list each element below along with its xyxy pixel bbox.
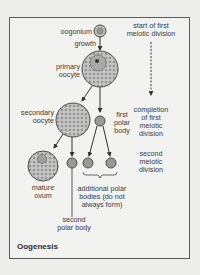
label-completion-line4: division — [128, 130, 174, 138]
first-polar-body-cell — [95, 116, 105, 126]
arrow-to-mature-ovum — [54, 134, 63, 148]
label-start-line2: meiotic division — [120, 30, 182, 38]
label-secondary-oocyte: secondary oocyte — [10, 109, 54, 125]
label-second-line3: division — [128, 166, 174, 174]
label-second-polar-body: second polar body — [52, 216, 96, 232]
label-additional-polar-bodies: additional polar bodies (do not always f… — [72, 185, 132, 209]
label-completion-first-meiotic-division: completion of first meiotic division — [128, 106, 174, 138]
additional-polar-bodies-brace — [83, 172, 117, 178]
arrow-to-secondary-oocyte — [82, 86, 92, 101]
oogonium-cell — [94, 25, 106, 37]
arrow-to-additional-polar-body-2 — [103, 126, 110, 156]
oogenesis-figure: oogonium growth primary oocyte secondary… — [0, 0, 200, 275]
label-mature-ovum: mature ovum — [25, 184, 61, 200]
label-mature-ovum-line2: ovum — [25, 192, 61, 200]
primary-oocyte-cell — [82, 51, 118, 87]
label-second-meiotic-division: second meiotic division — [128, 150, 174, 174]
additional-polar-body-1 — [83, 158, 93, 168]
label-growth: growth — [60, 40, 96, 48]
label-primary-oocyte-line2: oocyte — [40, 71, 80, 79]
mature-ovum-cell — [28, 151, 58, 181]
secondary-oocyte-cell — [56, 103, 90, 137]
label-primary-oocyte: primary oocyte — [40, 63, 80, 79]
label-oogonium: oogonium — [50, 28, 92, 36]
second-polar-body-cell — [67, 158, 77, 168]
arrow-to-additional-polar-body-1 — [89, 126, 97, 156]
label-start-first-meiotic-division: start of first meiotic division — [120, 22, 182, 38]
additional-polar-body-2 — [106, 158, 116, 168]
figure-title: Oogenesis — [17, 242, 58, 251]
label-secondary-oocyte-line2: oocyte — [10, 117, 54, 125]
label-additional-polar-bodies-line3: always form) — [72, 201, 132, 209]
label-second-polar-body-line2: polar body — [52, 224, 96, 232]
